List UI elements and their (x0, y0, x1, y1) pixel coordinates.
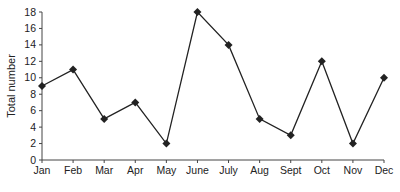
x-tick-label: Aug (250, 164, 269, 176)
diamond-marker (38, 82, 46, 90)
x-tick-label: Jan (34, 164, 51, 176)
diamond-marker (100, 115, 108, 123)
y-tick-label: 6 (30, 104, 36, 116)
x-tick-label: Nov (344, 164, 363, 176)
x-tick-label: Apr (127, 164, 144, 176)
x-tick-label: July (219, 164, 238, 176)
y-tick-label: 16 (24, 22, 36, 34)
diamond-marker (318, 57, 326, 65)
y-tick-label: 2 (30, 137, 36, 149)
line-chart: 024681012141618 JanFebMarAprMayJuneJulyA… (0, 0, 400, 192)
y-tick-label: 14 (24, 38, 36, 50)
x-tick-label: June (186, 164, 209, 176)
series-line (42, 12, 384, 144)
diamond-marker (69, 66, 77, 74)
diamond-marker (287, 131, 295, 139)
y-axis-label: Total number (5, 54, 17, 118)
y-tick-label: 10 (24, 71, 36, 83)
x-tick-label: Mar (95, 164, 114, 176)
diamond-marker (380, 74, 388, 82)
y-tick-label: 18 (24, 6, 36, 18)
x-tick-label: Sept (280, 164, 302, 176)
x-tick-label: Oct (314, 164, 330, 176)
y-tick-label: 8 (30, 88, 36, 100)
y-tick-label: 12 (24, 55, 36, 67)
diamond-marker (256, 115, 264, 123)
axes (42, 12, 384, 160)
y-tick-label: 4 (30, 121, 36, 133)
x-tick-label: Dec (375, 164, 394, 176)
x-tick-label: May (156, 164, 177, 176)
x-axis-ticks: JanFebMarAprMayJuneJulyAugSeptOctNovDec (34, 160, 394, 176)
diamond-marker (349, 140, 357, 148)
x-tick-label: Feb (64, 164, 82, 176)
data-series (38, 8, 388, 148)
